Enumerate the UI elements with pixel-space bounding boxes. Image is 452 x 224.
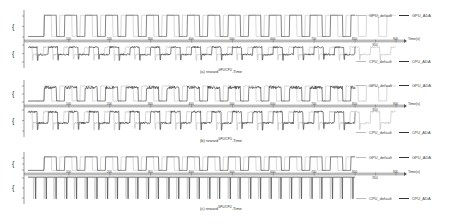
x-tick-label: 200 (107, 102, 112, 106)
x-tick-label: 800 (352, 170, 357, 174)
x-tick-label: 500 (229, 170, 234, 174)
legend-swatch (356, 85, 366, 86)
x-tick-label: 900 (393, 37, 398, 41)
caption-suffix: -Time (232, 206, 242, 211)
x-tick-label: 400 (189, 170, 194, 174)
panel-caption-b: (b) rewardGPU/CPU-Time (200, 137, 242, 143)
x-tick-label: 100 (66, 170, 71, 174)
caption-suffix: -Time (232, 138, 242, 143)
x-tick-label: 700 (311, 37, 316, 41)
x-tick-label: 800 (352, 102, 357, 106)
caption-text: (a) reward (200, 69, 218, 74)
x-tick-label: 500 (229, 102, 234, 106)
x-tick-label: 600 (270, 37, 275, 41)
caption-superscript: GPU/CPU (218, 137, 232, 141)
x-axis-arrow-icon (404, 39, 407, 43)
legend-label: GPU_ADA (412, 155, 431, 160)
legend-swatch (356, 61, 366, 62)
series-gpu-ada (28, 15, 355, 36)
series-cpu-ada (28, 46, 355, 60)
legend-swatch (399, 157, 409, 158)
caption-text: (b) reward (200, 138, 218, 143)
x-axis-label: Time(s) (408, 102, 420, 106)
panel-caption-c: (c) rewardGPU/CPU-Time (200, 205, 242, 211)
x-tick-label: 500 (229, 37, 234, 41)
x-axis-label: Time(s) (408, 37, 420, 41)
legend-gpu-b: GPU_defaultGPU_ADA (356, 83, 435, 88)
y-axis-label-cpu: { (12, 117, 15, 125)
panel-b: {{Time(s)100200300400500600700800850900 (12, 80, 420, 137)
x-tick-label: 800 (352, 37, 357, 41)
y-axis-label-cpu: { (12, 184, 15, 192)
legend-label: GPU_default (369, 13, 392, 18)
series-gpu-ada (28, 157, 355, 171)
y-axis-label-gpu: { (12, 90, 15, 98)
x-axis-arrow-icon (404, 104, 407, 108)
series-gpu-default (28, 15, 396, 36)
legend-label: GPU_default (369, 83, 392, 88)
legend-swatch (356, 157, 366, 158)
series-gpu-ada (28, 86, 355, 101)
x-tick-label: 600 (270, 102, 275, 106)
legend-label: CPU_default (369, 130, 392, 135)
legend-label: CPU_ADA (412, 196, 431, 201)
x-tick-label: 300 (148, 37, 153, 41)
y-axis-label-cpu: { (12, 50, 15, 58)
x-tick-label: 600 (270, 170, 275, 174)
x-tick-label: 900 (393, 170, 398, 174)
legend-label: GPU_ADA (412, 13, 431, 18)
legend-cpu-c: CPU_defaultCPU_ADA (356, 196, 435, 201)
legend-gpu-c: GPU_defaultGPU_ADA (356, 155, 435, 160)
legend-swatch (399, 85, 409, 86)
x-tick-label: 300 (148, 170, 153, 174)
legend-swatch (356, 15, 366, 16)
y-axis-label-gpu: { (12, 23, 15, 31)
caption-text: (c) reward (200, 206, 218, 211)
legend-swatch (356, 198, 366, 199)
x-tick-label: 200 (107, 37, 112, 41)
legend-swatch (356, 132, 366, 133)
x-tick-label: 100 (66, 102, 71, 106)
legend-label: CPU_ADA (412, 130, 431, 135)
caption-superscript: GPU/CPU (218, 205, 232, 209)
x-tick-label: 300 (148, 102, 153, 106)
series-cpu-ada (28, 111, 355, 130)
caption-suffix: -Time (232, 69, 242, 74)
x-tick-label: 850 (373, 176, 378, 180)
x-tick-label: 100 (66, 37, 71, 41)
legend-swatch (399, 198, 409, 199)
x-axis-arrow-icon (404, 172, 407, 176)
legend-label: CPU_ADA (412, 59, 431, 64)
legend-swatch (399, 132, 409, 133)
legend-swatch (399, 15, 409, 16)
x-tick-label: 400 (189, 102, 194, 106)
x-tick-label: 700 (311, 170, 316, 174)
y-axis-label-gpu: { (12, 160, 15, 168)
x-tick-label: 850 (373, 43, 378, 47)
x-tick-label: 700 (311, 102, 316, 106)
legend-label: CPU_default (369, 196, 392, 201)
legend-cpu-a: CPU_defaultCPU_ADA (356, 59, 435, 64)
legend-swatch (399, 61, 409, 62)
legend-label: CPU_default (369, 59, 392, 64)
figure-canvas: {{Time(s)100200300400500600700800850900{… (0, 0, 452, 224)
x-tick-label: 900 (393, 102, 398, 106)
caption-superscript: GPU/CPU (218, 68, 232, 72)
legend-cpu-b: CPU_defaultCPU_ADA (356, 130, 435, 135)
legend-gpu-a: GPU_defaultGPU_ADA (356, 13, 435, 18)
series-cpu-ada (28, 177, 355, 199)
x-tick-label: 400 (189, 37, 194, 41)
legend-label: GPU_default (369, 155, 392, 160)
x-tick-label: 200 (107, 170, 112, 174)
panel-caption-a: (a) rewardGPU/CPU-Time (200, 68, 242, 74)
legend-label: GPU_ADA (412, 83, 431, 88)
x-axis-label: Time(s) (408, 170, 420, 174)
